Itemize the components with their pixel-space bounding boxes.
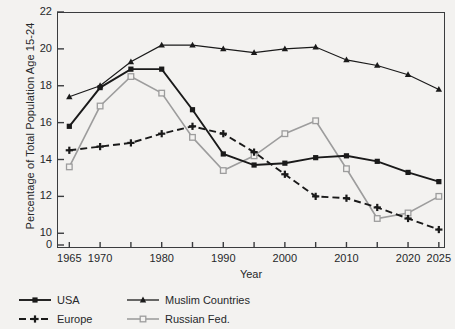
legend-label: Europe [57,313,92,325]
data-point-marker [140,316,146,322]
x-tick-label: 2025 [419,252,455,264]
plot-area [57,12,445,248]
y-tick-label: 14 [22,153,52,165]
chart-legend: USAMuslim CountriesEuropeRussian Fed. [18,290,258,328]
y-tick-label: 22 [22,5,52,17]
legend-item-russian-fed[interactable]: Russian Fed. [126,313,258,325]
legend-item-muslim-countries[interactable]: Muslim Countries [126,294,258,306]
data-point-marker [31,315,38,322]
chart-page: Percentage of Total Population Age 15-24… [0,0,455,329]
legend-label: Russian Fed. [165,313,230,325]
legend-item-usa[interactable]: USA [18,294,126,306]
y-axis-tick-labels: 010121416182022 [16,0,52,329]
x-tick-label: 1970 [80,252,120,264]
legend-swatch-icon [126,313,160,325]
legend-swatch-icon [126,294,160,306]
legend-item-europe[interactable]: Europe [18,313,126,325]
y-tick-label: 20 [22,42,52,54]
x-tick-label: 1980 [142,252,182,264]
legend-label: Muslim Countries [165,294,250,306]
y-tick-label: 16 [22,116,52,128]
data-point-marker [32,297,37,302]
y-tick-label: 0 [22,238,52,250]
x-tick-label: 2000 [265,252,305,264]
y-tick-label: 18 [22,79,52,91]
legend-swatch-icon [18,313,52,325]
legend-label: USA [57,294,80,306]
x-tick-label: 1990 [203,252,243,264]
x-axis-title: Year [57,268,445,280]
y-tick-label: 12 [22,189,52,201]
x-tick-label: 2010 [326,252,366,264]
y-tick-label: 10 [22,226,52,238]
legend-swatch-icon [18,294,52,306]
